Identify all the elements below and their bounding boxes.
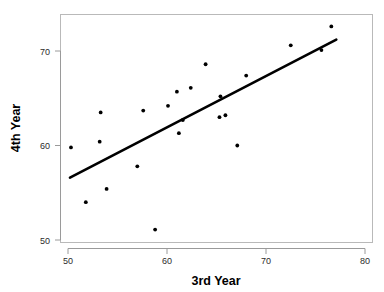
x-axis-title: 3rd Year <box>191 274 240 288</box>
data-point <box>181 118 185 122</box>
data-point <box>289 43 293 47</box>
x-tick-label-70: 70 <box>261 256 271 266</box>
data-point <box>244 74 248 78</box>
data-point <box>218 115 222 119</box>
data-point <box>84 200 88 204</box>
data-point <box>189 86 193 90</box>
y-tick-label-60: 60 <box>40 141 50 151</box>
data-point <box>166 104 170 108</box>
data-point <box>135 164 139 168</box>
y-tick-label-70: 70 <box>40 47 50 57</box>
data-point <box>153 228 157 232</box>
data-point <box>235 144 239 148</box>
data-point <box>69 145 73 149</box>
plot-canvas: 70 60 50 50 60 70 80 3rd Year 4th Year <box>0 0 384 292</box>
data-point <box>329 25 333 29</box>
scatter-points-group <box>69 25 333 232</box>
data-point <box>99 111 103 115</box>
regression-fit-line <box>70 40 336 178</box>
data-point <box>219 94 223 98</box>
data-point <box>204 62 208 66</box>
x-tick-label-50: 50 <box>63 256 73 266</box>
data-point <box>177 131 181 135</box>
y-tick-label-50: 50 <box>40 236 50 246</box>
data-point <box>175 90 179 94</box>
data-point <box>141 109 145 113</box>
data-point <box>224 113 228 117</box>
data-point <box>320 48 324 52</box>
x-tick-label-80: 80 <box>360 256 370 266</box>
x-axis: 50 60 70 80 <box>63 249 370 267</box>
plot-frame <box>61 15 373 243</box>
x-tick-label-60: 60 <box>162 256 172 266</box>
scatter-plot-figure: 70 60 50 50 60 70 80 3rd Year 4th Year <box>0 0 384 292</box>
data-point <box>98 140 102 144</box>
y-axis: 70 60 50 <box>40 47 61 246</box>
data-point <box>105 187 109 191</box>
y-axis-title: 4th Year <box>9 104 23 153</box>
